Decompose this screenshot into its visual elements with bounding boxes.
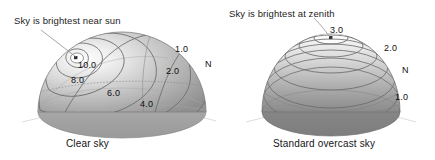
contour-label-1: 1.0 [175, 44, 188, 54]
contour-label-2: 2.0 [384, 43, 397, 53]
compass-label-north: N [402, 65, 409, 75]
contour-label-3: 3.0 [330, 25, 343, 35]
annotation-clear-sky: Sky is brightest near sun [14, 15, 121, 26]
caption-overcast-sky: Standard overcast sky [273, 138, 375, 149]
annotation-leader-line [41, 30, 76, 57]
panel-standard-overcast-sky: Sky is brightest at zenith 3.0 2.0 1.0 N… [218, 0, 435, 160]
compass-label-north: N [205, 59, 212, 69]
contour-label-10: 10.0 [78, 60, 96, 70]
contour-label-1: 1.0 [395, 92, 408, 102]
contour-label-8: 8.0 [71, 75, 84, 85]
annotation-leader-line [314, 18, 330, 37]
panel-clear-sky: Sky is brightest near sun 10.0 8.0 6.0 4… [0, 0, 218, 160]
contour-label-2: 2.0 [166, 66, 179, 76]
contour-label-4: 4.0 [140, 99, 153, 109]
annotation-overcast-sky: Sky is brightest at zenith [229, 8, 335, 19]
sky-luminance-figure: Sky is brightest near sun 10.0 8.0 6.0 4… [0, 0, 435, 160]
overcast-sky-dome-graphic [218, 0, 435, 160]
caption-clear-sky: Clear sky [66, 138, 109, 149]
contour-label-6: 6.0 [107, 88, 120, 98]
